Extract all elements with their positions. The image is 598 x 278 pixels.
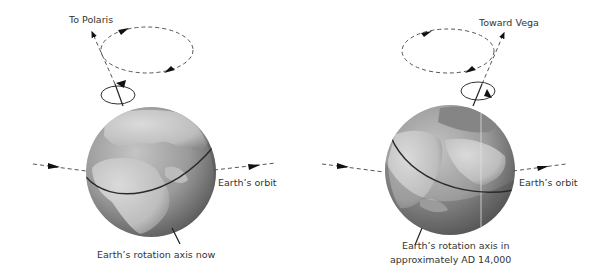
orbit-label: Earth’s orbit [519,177,578,188]
axis-north-line [115,84,123,106]
precession-diagram: To Polaris Earth’s orbit Earth’s rotatio… [0,0,598,278]
precession-arrow-icon [465,66,476,73]
precession-arrow-icon [118,28,129,35]
orbit-arrow-icon [337,163,349,169]
panel-now: To Polaris Earth’s orbit Earth’s rotatio… [33,14,277,260]
orbit-line-left [33,163,86,171]
orbit-arrow-icon [48,163,60,169]
caption-line-1: Earth’s rotation axis now [97,249,216,260]
orbit-arrow-icon [248,164,260,170]
axis-pointer-arrow [92,32,115,84]
axis-label-polaris: To Polaris [68,14,113,25]
orbit-line-right [513,164,566,171]
axis-pointer-arrow [482,33,504,84]
axis-north-line [473,84,482,106]
rotation-arrow-icon [484,89,492,98]
earth-globe-now [86,100,230,238]
precession-ellipse [101,27,193,73]
panel-future: Toward Vega Earth’s orbit Earth’s rotati… [322,17,578,265]
axis-label-vega: Toward Vega [478,17,539,28]
orbit-line-left [322,163,384,172]
caption-line-1: Earth’s rotation axis in [402,240,509,251]
orbit-line-right [214,163,276,170]
rotation-ellipse [461,82,495,100]
precession-ellipse [402,29,494,73]
orbit-arrow-icon [537,166,549,171]
orbit-label: Earth’s orbit [218,177,277,188]
precession-arrow-icon [164,66,175,73]
earth-globe-future [380,105,515,240]
caption-line-2: approximately AD 14,000 [390,254,511,265]
